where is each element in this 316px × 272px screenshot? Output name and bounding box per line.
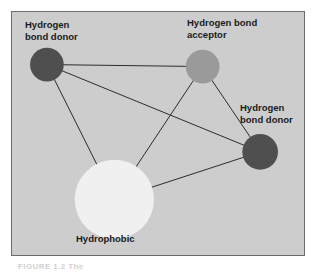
graph-node-donor-right bbox=[242, 134, 278, 170]
edge-layer bbox=[47, 65, 260, 200]
graph-node-hydrophobic bbox=[75, 160, 154, 239]
figure-panel: Hydrogen bond donor Hydrogen bond accept… bbox=[11, 11, 305, 256]
graph-edge bbox=[47, 65, 203, 67]
graph-node-acceptor bbox=[186, 50, 220, 84]
graph-node-donor-top-left bbox=[30, 48, 64, 82]
page-bleed-text: · · · bbox=[60, 0, 310, 4]
figure-caption: FIGURE 1.2 The bbox=[18, 262, 248, 272]
node-label-donor-top-left: Hydrogen bond donor bbox=[25, 19, 78, 42]
node-label-hydrophobic: Hydrophobic bbox=[76, 233, 135, 245]
graph-edge bbox=[47, 65, 260, 152]
node-label-acceptor: Hydrogen bond acceptor bbox=[187, 17, 257, 40]
node-label-donor-right: Hydrogen bond donor bbox=[240, 102, 293, 125]
pharmacophore-diagram bbox=[12, 12, 304, 255]
